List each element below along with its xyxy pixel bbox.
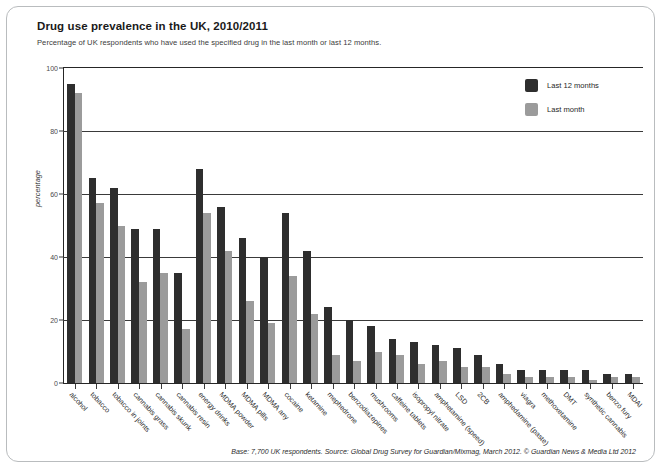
bar-group [600, 67, 621, 383]
bar[interactable] [482, 367, 490, 383]
x-axis-tick-mark [451, 384, 472, 389]
y-axis-tick-mark [59, 131, 63, 132]
bar[interactable] [217, 207, 225, 383]
bar-group [450, 67, 471, 383]
bar-group [493, 67, 514, 383]
bar[interactable] [474, 355, 482, 383]
y-axis-tick-mark [59, 383, 63, 384]
bar-group [236, 67, 257, 383]
bar[interactable] [225, 251, 233, 383]
page-subtitle: Percentage of UK respondents who have us… [37, 38, 381, 47]
bar[interactable] [418, 364, 426, 383]
bar[interactable] [260, 257, 268, 383]
bar[interactable] [603, 374, 611, 383]
bar[interactable] [517, 370, 525, 383]
bar[interactable] [332, 355, 340, 383]
bar[interactable] [196, 169, 204, 383]
footer-source-note: Base: 7,700 UK respondents. Source: Glob… [7, 448, 636, 455]
bar[interactable] [525, 377, 533, 383]
bar[interactable] [118, 226, 126, 384]
bar[interactable] [389, 339, 397, 383]
bar[interactable] [203, 213, 211, 383]
x-axis-tick-mark [343, 384, 364, 389]
x-axis-tick-mark [193, 384, 214, 389]
bar[interactable] [75, 93, 83, 383]
bar[interactable] [453, 348, 461, 383]
bar-group [278, 67, 299, 383]
bar[interactable] [89, 178, 97, 383]
legend-swatch-icon [525, 79, 538, 92]
bar[interactable] [353, 361, 361, 383]
x-axis-tick-mark [601, 384, 622, 389]
bar[interactable] [96, 203, 104, 383]
bar[interactable] [268, 323, 276, 383]
bar[interactable] [324, 307, 332, 383]
bar[interactable] [131, 229, 139, 383]
x-axis-tick-mark [537, 384, 558, 389]
bar[interactable] [546, 377, 554, 383]
bar-group [214, 67, 235, 383]
x-axis-tick-mark [386, 384, 407, 389]
bar[interactable] [239, 238, 247, 383]
y-axis-tick-label: 0 [54, 380, 58, 387]
bar[interactable] [611, 377, 619, 383]
bar[interactable] [289, 276, 297, 383]
bar-group [257, 67, 278, 383]
bar[interactable] [568, 377, 576, 383]
bar[interactable] [346, 320, 354, 383]
x-axis-tick-mark [300, 384, 321, 389]
bar[interactable] [496, 364, 504, 383]
x-axis-tick-label: MDAI [626, 390, 645, 409]
bar-group [386, 67, 407, 383]
bar[interactable] [396, 355, 404, 383]
bar[interactable] [246, 301, 254, 383]
bar[interactable] [182, 329, 190, 383]
bar[interactable] [539, 370, 547, 383]
bar-group [343, 67, 364, 383]
bar[interactable] [303, 251, 311, 383]
x-axis-tick-mark [623, 384, 644, 389]
x-axis-tick-mark [580, 384, 601, 389]
y-axis-tick-label: 40 [50, 254, 58, 261]
x-axis-tick-label: LSD [454, 390, 470, 406]
x-axis-tick-mark [558, 384, 579, 389]
bar[interactable] [67, 84, 75, 383]
bar[interactable] [367, 326, 375, 383]
page-title: Drug use prevalence in the UK, 2010/2011 [37, 20, 268, 32]
legend-item-label: Last 12 months [547, 81, 599, 90]
legend-item-last-month: Last month [525, 103, 599, 116]
bar[interactable] [439, 361, 447, 383]
legend-item-label: Last month [547, 105, 585, 114]
x-axis-tick-label: alcohol [67, 390, 89, 413]
bar[interactable] [139, 282, 147, 383]
x-axis-tick-mark [236, 384, 257, 389]
bar[interactable] [461, 367, 469, 383]
bar[interactable] [432, 345, 440, 383]
bar[interactable] [589, 380, 597, 383]
x-axis-tick-mark [214, 384, 235, 389]
bar[interactable] [174, 273, 182, 383]
bar[interactable] [503, 374, 511, 383]
x-axis-tick-mark [85, 384, 106, 389]
x-axis-tick-mark [494, 384, 515, 389]
bar[interactable] [410, 342, 418, 383]
bar[interactable] [625, 374, 633, 383]
bar-group [407, 67, 428, 383]
x-axis-tick-mark [472, 384, 493, 389]
bar-group [364, 67, 385, 383]
bar[interactable] [632, 377, 640, 383]
bar[interactable] [153, 229, 161, 383]
x-axis-tick-mark [322, 384, 343, 389]
bar-group [107, 67, 128, 383]
bar[interactable] [110, 188, 118, 383]
bar[interactable] [311, 314, 319, 383]
x-axis-tick-label: tobacco [89, 390, 113, 415]
legend-item-last-12-months: Last 12 months [525, 79, 599, 92]
bar[interactable] [560, 370, 568, 383]
y-axis-tick-mark [59, 194, 63, 195]
bar[interactable] [160, 273, 168, 383]
bar[interactable] [375, 352, 383, 384]
bar-group [428, 67, 449, 383]
bar[interactable] [582, 370, 590, 383]
bar[interactable] [282, 213, 290, 383]
